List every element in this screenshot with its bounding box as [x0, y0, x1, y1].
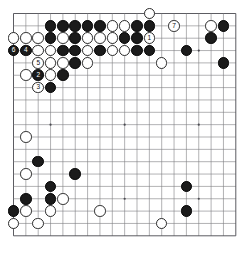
numbered-stone-black[interactable]: 6: [8, 45, 20, 57]
stone-move-number: 6: [12, 47, 16, 54]
stone-white[interactable]: [82, 45, 94, 57]
stone-white[interactable]: [205, 20, 217, 32]
stone-black[interactable]: [69, 57, 81, 69]
stone-white[interactable]: [20, 168, 32, 180]
stone-white[interactable]: [45, 205, 57, 217]
stone-white[interactable]: [45, 45, 57, 57]
stone-white[interactable]: [107, 20, 119, 32]
stone-black[interactable]: [69, 168, 81, 180]
stone-black[interactable]: [218, 57, 230, 69]
stone-white[interactable]: [20, 32, 32, 44]
stone-white[interactable]: [156, 218, 168, 230]
stone-white[interactable]: [20, 131, 32, 143]
go-board-diagram: 7164523: [0, 0, 246, 259]
stone-move-number: 1: [148, 35, 152, 42]
stone-white[interactable]: [107, 45, 119, 57]
stone-move-number: 7: [172, 23, 176, 30]
stone-black[interactable]: [32, 156, 44, 168]
stone-black[interactable]: [131, 45, 143, 57]
stone-white[interactable]: [82, 57, 94, 69]
stone-layer: 7164523: [0, 0, 246, 259]
numbered-stone-white[interactable]: 1: [144, 32, 156, 44]
stone-black[interactable]: [69, 45, 81, 57]
stone-black[interactable]: [181, 205, 193, 217]
stone-black[interactable]: [45, 82, 57, 94]
stone-black[interactable]: [94, 45, 106, 57]
stone-black[interactable]: [57, 69, 69, 81]
stone-black[interactable]: [181, 45, 193, 57]
stone-black[interactable]: [181, 181, 193, 193]
stone-black[interactable]: [57, 45, 69, 57]
stone-black[interactable]: [57, 20, 69, 32]
stone-black[interactable]: [45, 32, 57, 44]
stone-white[interactable]: [119, 45, 131, 57]
stone-black[interactable]: [69, 32, 81, 44]
stone-white[interactable]: [20, 69, 32, 81]
stone-black[interactable]: [131, 32, 143, 44]
stone-black[interactable]: [45, 181, 57, 193]
stone-black[interactable]: [69, 20, 81, 32]
stone-white[interactable]: [45, 57, 57, 69]
stone-white[interactable]: [8, 218, 20, 230]
stone-move-number: 5: [36, 60, 40, 67]
stone-black[interactable]: [218, 20, 230, 32]
stone-black[interactable]: [94, 20, 106, 32]
stone-white[interactable]: [119, 20, 131, 32]
stone-white[interactable]: [57, 32, 69, 44]
numbered-stone-black[interactable]: 2: [32, 69, 44, 81]
stone-white[interactable]: [45, 69, 57, 81]
stone-move-number: 3: [36, 84, 40, 91]
numbered-stone-white[interactable]: 5: [32, 57, 44, 69]
stone-black[interactable]: [20, 193, 32, 205]
stone-white[interactable]: [32, 32, 44, 44]
stone-black[interactable]: [45, 20, 57, 32]
numbered-stone-black[interactable]: 4: [20, 45, 32, 57]
stone-black[interactable]: [119, 32, 131, 44]
stone-white[interactable]: [8, 32, 20, 44]
stone-black[interactable]: [45, 193, 57, 205]
stone-white[interactable]: [94, 205, 106, 217]
stone-white[interactable]: [57, 57, 69, 69]
stone-move-number: 2: [36, 72, 40, 79]
stone-black[interactable]: [144, 45, 156, 57]
stone-white[interactable]: [94, 32, 106, 44]
stone-black[interactable]: [131, 20, 143, 32]
stone-white[interactable]: [107, 32, 119, 44]
stone-white[interactable]: [57, 193, 69, 205]
numbered-stone-white[interactable]: 7: [168, 20, 180, 32]
stone-white[interactable]: [144, 8, 156, 20]
stone-black[interactable]: [205, 32, 217, 44]
stone-white[interactable]: [32, 45, 44, 57]
stone-white[interactable]: [82, 32, 94, 44]
stone-white[interactable]: [32, 218, 44, 230]
stone-black[interactable]: [82, 20, 94, 32]
stone-move-number: 4: [24, 47, 28, 54]
stone-black[interactable]: [144, 20, 156, 32]
stone-black[interactable]: [8, 205, 20, 217]
stone-white[interactable]: [20, 205, 32, 217]
numbered-stone-white[interactable]: 3: [32, 82, 44, 94]
stone-white[interactable]: [156, 57, 168, 69]
